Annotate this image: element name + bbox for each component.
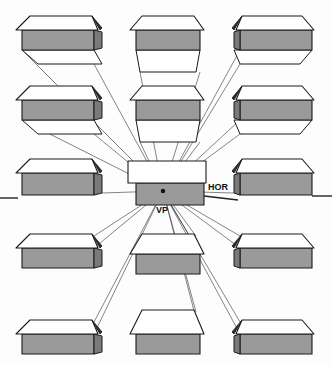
- house-roof: [236, 234, 314, 248]
- house-roof: [16, 320, 98, 334]
- house-wall: [136, 334, 200, 354]
- house-roof: [16, 159, 98, 173]
- house-wall: [136, 30, 200, 50]
- house: [232, 16, 314, 64]
- house-underside: [22, 120, 102, 134]
- house-side-wall: [234, 173, 240, 195]
- house-side-wall: [234, 30, 240, 50]
- house-wall: [240, 173, 312, 195]
- house-side-wall: [94, 248, 102, 268]
- house-roof: [130, 86, 204, 100]
- house: [16, 159, 102, 195]
- horizon-label: HOR: [208, 182, 229, 192]
- house: [16, 320, 102, 354]
- house-side-wall: [94, 173, 102, 195]
- house-wall: [136, 254, 200, 274]
- house: [130, 16, 204, 72]
- house-underside: [136, 120, 200, 142]
- house-roof: [16, 86, 98, 100]
- house-wall: [240, 334, 312, 354]
- house-wall: [240, 100, 312, 120]
- house-wall: [240, 30, 312, 50]
- house-roof: [16, 234, 98, 248]
- house-side-wall: [94, 334, 102, 354]
- house-wall: [136, 100, 200, 120]
- house-roof: [236, 16, 314, 30]
- house-roof: [130, 234, 204, 254]
- house-side-wall: [234, 334, 240, 354]
- house-roof: [130, 310, 204, 334]
- house-underside: [234, 50, 312, 64]
- house-roof: [128, 161, 206, 183]
- house-underside: [136, 50, 200, 72]
- house-wall: [22, 30, 94, 50]
- house-wall: [22, 248, 94, 268]
- perspective-diagram: VP HOR: [0, 0, 332, 365]
- house: [128, 161, 206, 205]
- house-side-wall: [234, 100, 240, 120]
- house-underside: [234, 120, 312, 134]
- house-wall: [22, 173, 94, 195]
- house-wall: [22, 334, 94, 354]
- house-side-wall: [94, 100, 102, 120]
- house: [16, 86, 102, 134]
- house: [130, 234, 204, 274]
- house: [16, 234, 102, 268]
- house-roof: [236, 159, 314, 173]
- vanishing-point-marker: [161, 189, 165, 193]
- house-roof: [236, 86, 314, 100]
- house-side-wall: [94, 30, 102, 50]
- house: [232, 159, 314, 195]
- house-grid: [16, 16, 314, 354]
- diagram-canvas: VP HOR: [0, 0, 332, 365]
- house-roof: [16, 16, 98, 30]
- house-wall: [240, 248, 312, 268]
- horizon-line-right: [204, 196, 238, 200]
- house-side-wall: [234, 248, 240, 268]
- house-wall: [22, 100, 94, 120]
- vanishing-point-label: VP: [156, 205, 168, 215]
- house-roof: [130, 16, 204, 30]
- house-roof: [236, 320, 314, 334]
- house-wall: [136, 183, 204, 205]
- house: [130, 310, 204, 354]
- house: [232, 320, 314, 354]
- house: [232, 234, 314, 268]
- house: [232, 86, 314, 134]
- house: [130, 86, 204, 142]
